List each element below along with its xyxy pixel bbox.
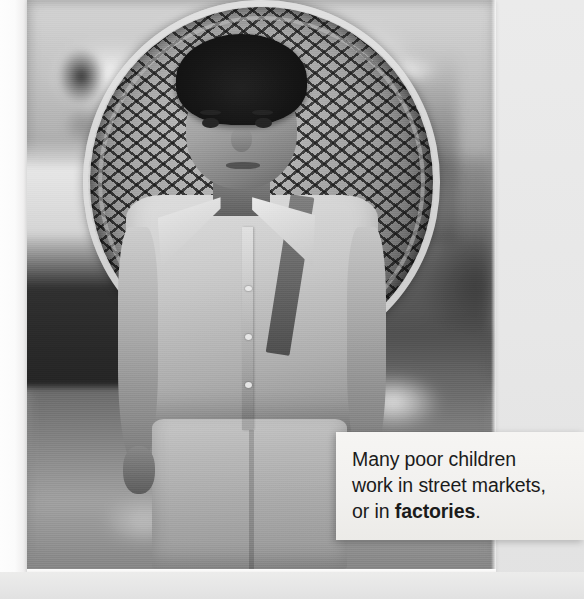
boy-shirt-button [245, 334, 252, 340]
boy-mouth [226, 162, 260, 168]
boy-hand-left [123, 446, 155, 494]
caption-line-3: or in factories. [352, 498, 574, 524]
caption-line-1: Many poor children [352, 446, 574, 472]
boy-eye-right [255, 118, 272, 129]
boy-shirt-placket [242, 227, 254, 430]
caption-line-3-prefix: or in [352, 500, 395, 522]
caption-keyword-factories: factories [395, 500, 475, 522]
caption-line-2: work in street markets, [352, 472, 574, 498]
page-bottom-strip [0, 572, 584, 599]
boy-eyebrow-right [252, 110, 273, 115]
boy-trouser-seam [249, 430, 253, 569]
caption-box: Many poor children work in street market… [336, 432, 584, 540]
boy-eyebrow-left [200, 110, 221, 115]
boy-arm-right [347, 227, 386, 462]
page-canvas: Many poor children work in street market… [0, 0, 584, 599]
boy-hair [176, 34, 307, 125]
page-left-gutter [0, 0, 27, 599]
caption-line-3-suffix: . [475, 500, 480, 522]
boy-shirt-button [245, 382, 252, 388]
boy-nose [231, 128, 252, 152]
